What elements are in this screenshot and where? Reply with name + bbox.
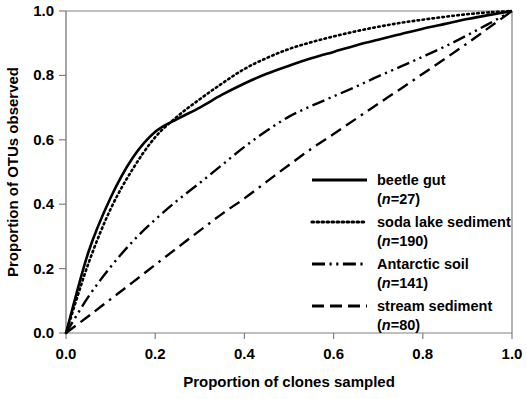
x-axis-title: Proportion of clones sampled xyxy=(183,373,395,390)
y-tick-label-0: 0.0 xyxy=(33,324,54,341)
x-tick-label-5: 1.0 xyxy=(502,345,523,362)
x-tick-label-3: 0.6 xyxy=(323,345,344,362)
y-axis-title: Proportion of OTUs observed xyxy=(4,67,21,277)
legend-n-soda-lake-sediment: (n=190) xyxy=(377,233,428,249)
chart-svg: 0.00.20.40.60.81.00.00.20.40.60.81.0Prop… xyxy=(0,0,527,399)
legend-label-stream-sediment: stream sediment xyxy=(377,298,492,314)
y-tick-label-1: 0.2 xyxy=(33,260,54,277)
x-tick-label-0: 0.0 xyxy=(56,345,77,362)
y-tick-label-2: 0.4 xyxy=(33,195,55,212)
y-tick-label-3: 0.6 xyxy=(33,131,54,148)
legend-n-beetle-gut: (n=27) xyxy=(377,191,420,207)
y-tick-label-5: 1.0 xyxy=(33,2,54,19)
y-tick-label-4: 0.8 xyxy=(33,66,54,83)
legend-label-antarctic-soil: Antarctic soil xyxy=(377,256,469,272)
legend-label-soda-lake-sediment: soda lake sediment xyxy=(377,214,511,230)
legend-label-beetle-gut: beetle gut xyxy=(377,172,446,188)
rarefaction-curve-figure: 0.00.20.40.60.81.00.00.20.40.60.81.0Prop… xyxy=(0,0,527,399)
x-tick-label-2: 0.4 xyxy=(234,345,256,362)
legend-n-stream-sediment: (n=80) xyxy=(377,317,420,333)
legend-n-antarctic-soil: (n=141) xyxy=(377,275,428,291)
x-tick-label-4: 0.8 xyxy=(412,345,433,362)
x-tick-label-1: 0.2 xyxy=(145,345,166,362)
